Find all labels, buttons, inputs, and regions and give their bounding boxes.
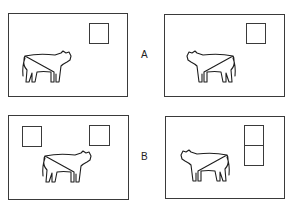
row-label-b: B (141, 151, 148, 162)
square-lower (244, 145, 264, 166)
panel-a-right (164, 14, 285, 97)
panel-b-left (8, 115, 129, 200)
square (22, 126, 42, 147)
panel-a-left (8, 13, 128, 97)
cow-icon-facing-left (173, 147, 233, 187)
panel-b-right (165, 116, 285, 199)
square (89, 125, 110, 146)
square-upper (244, 125, 264, 146)
square (89, 23, 109, 44)
square (246, 23, 266, 44)
row-label-a: A (141, 49, 148, 60)
cow-icon-facing-left (179, 48, 239, 88)
cow-icon-facing-right (39, 148, 99, 188)
cow-icon-facing-right (19, 48, 79, 88)
